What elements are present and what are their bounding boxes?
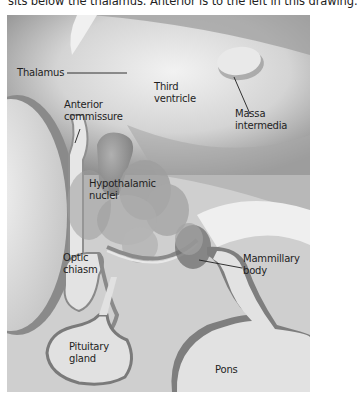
label-massa-line2: intermedia bbox=[235, 120, 287, 132]
label-optic-chiasm: Optic chiasm bbox=[63, 252, 98, 276]
label-pituitary-line2: gland bbox=[69, 353, 109, 365]
label-third-ventricle-line2: ventricle bbox=[154, 93, 196, 105]
label-third-ventricle: Third ventricle bbox=[154, 81, 196, 105]
label-pons: Pons bbox=[215, 364, 238, 376]
label-hypo-line2: nuclei bbox=[89, 190, 156, 202]
label-anterior-line2: commissure bbox=[64, 111, 123, 123]
label-anterior-commissure: Anterior commissure bbox=[64, 99, 123, 123]
label-mammillary-line2: body bbox=[243, 265, 300, 277]
label-massa-line1: Massa bbox=[235, 108, 287, 120]
label-massa-intermedia: Massa intermedia bbox=[235, 108, 287, 132]
figure-caption: sits below the thalamus. Anterior is to … bbox=[8, 0, 328, 8]
label-third-ventricle-line1: Third bbox=[154, 81, 196, 93]
label-mammillary-body: Mammillary body bbox=[243, 253, 300, 277]
label-pituitary-line1: Pituitary bbox=[69, 341, 109, 353]
hypothalamus-diagram: Thalamus Third ventricle Massa intermedi… bbox=[7, 15, 310, 392]
label-optic-line2: chiasm bbox=[63, 264, 98, 276]
label-pituitary-gland: Pituitary gland bbox=[69, 341, 109, 365]
label-optic-line1: Optic bbox=[63, 252, 98, 264]
label-thalamus: Thalamus bbox=[17, 67, 64, 79]
label-hypothalamic-nuclei: Hypothalamic nuclei bbox=[89, 178, 156, 202]
label-hypo-line1: Hypothalamic bbox=[89, 178, 156, 190]
label-mammillary-line1: Mammillary bbox=[243, 253, 300, 265]
label-anterior-line1: Anterior bbox=[64, 99, 123, 111]
